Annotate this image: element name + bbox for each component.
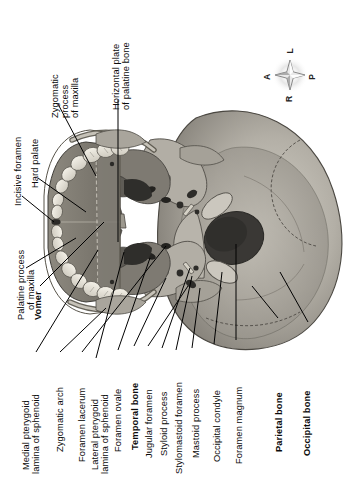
label-incisive-foramen: Incisive foramen — [13, 137, 23, 206]
label-mastoid-process: Mastoid process — [191, 389, 201, 458]
label-parietal-bone: Parietal bone — [274, 392, 284, 452]
label-palatine-process-of-maxilla: Palatine process — [16, 250, 26, 320]
label-foramen-ovale: Foramen ovale — [113, 389, 123, 452]
label-horizontal-plate-of-palatine-bone: Horizontal plate — [111, 44, 121, 110]
label-horizontal-plate-of-palatine-bone-line2: of palatine bone — [121, 42, 131, 110]
rose-letter-posterior: P — [307, 74, 317, 80]
label-occipital-bone: Occipital bone — [302, 391, 312, 456]
label-occipital-condyle: Occipital condyle — [212, 390, 222, 462]
label-foramen-magnum: Foramen magnum — [234, 387, 244, 464]
label-medial-pterygoid-lamina: Medial pterygoid — [21, 400, 31, 470]
label-foramen-lacerum: Foramen lacerum — [77, 388, 87, 462]
rose-letter-right: R — [284, 96, 294, 102]
label-vomer: Vomer — [33, 291, 43, 320]
rose-letter-anterior: A — [262, 74, 272, 80]
label-lateral-pterygoid-lamina: Lateral pterygoid — [90, 399, 100, 470]
figure-page: L P R A Incisive foramen Hard palate Zyg… — [0, 0, 350, 479]
anatomical-orientation-rose: L P R A — [262, 46, 318, 104]
label-zygomatic-process-of-maxilla: Zygomatic — [50, 74, 60, 118]
label-stylomastoid-foramen: Stylomastoid foramen — [174, 382, 184, 474]
label-lateral-pterygoid-lamina-line2: lamina of sphenoid — [100, 394, 110, 474]
label-zygomatic-process-of-maxilla-line3: of maxilla — [70, 78, 80, 118]
label-jugular-foramen: Jugular foramen — [144, 389, 154, 458]
label-zygomatic-process-of-maxilla-line2: process — [60, 85, 70, 118]
label-zygomatic-arch: Zygomatic arch — [55, 387, 65, 452]
label-medial-pterygoid-lamina-line2: lamina of sphenoid — [31, 394, 41, 474]
label-styloid-process: Styloid process — [159, 391, 169, 456]
label-temporal-bone: Temporal bone — [130, 383, 140, 450]
label-hard-palate: Hard palate — [30, 139, 40, 188]
choanae — [124, 179, 152, 265]
rose-letter-left: L — [285, 48, 295, 53]
